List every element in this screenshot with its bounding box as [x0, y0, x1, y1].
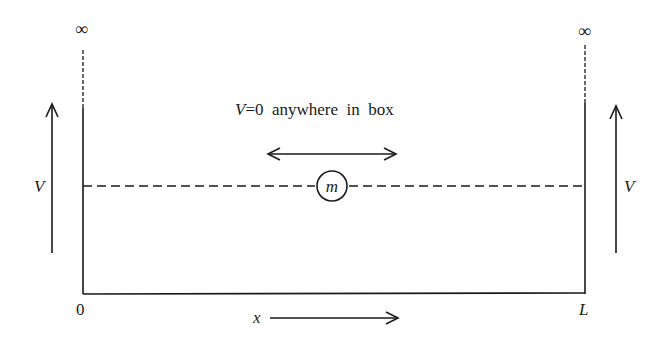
- x-axis-arrow: [270, 312, 398, 324]
- left-infinity-label: ∞: [75, 19, 88, 39]
- infinite-square-well-diagram: ∞ ∞ V=0 anywhere in box m V V 0 L x: [0, 0, 671, 338]
- box-floor: [83, 293, 585, 294]
- right-potential-arrow: [610, 106, 622, 253]
- x-axis-label: x: [252, 308, 261, 327]
- box-description: V=0 anywhere in box: [235, 100, 394, 119]
- length-label: L: [578, 300, 588, 319]
- motion-double-arrow: [268, 148, 396, 160]
- left-potential-label: V: [34, 177, 47, 196]
- origin-label: 0: [76, 300, 85, 319]
- particle-mass-label: m: [326, 177, 338, 196]
- right-potential-label: V: [624, 177, 637, 196]
- box-description-rest: =0 anywhere in box: [245, 100, 394, 119]
- right-infinity-label: ∞: [578, 21, 591, 41]
- left-potential-arrow: [46, 104, 58, 253]
